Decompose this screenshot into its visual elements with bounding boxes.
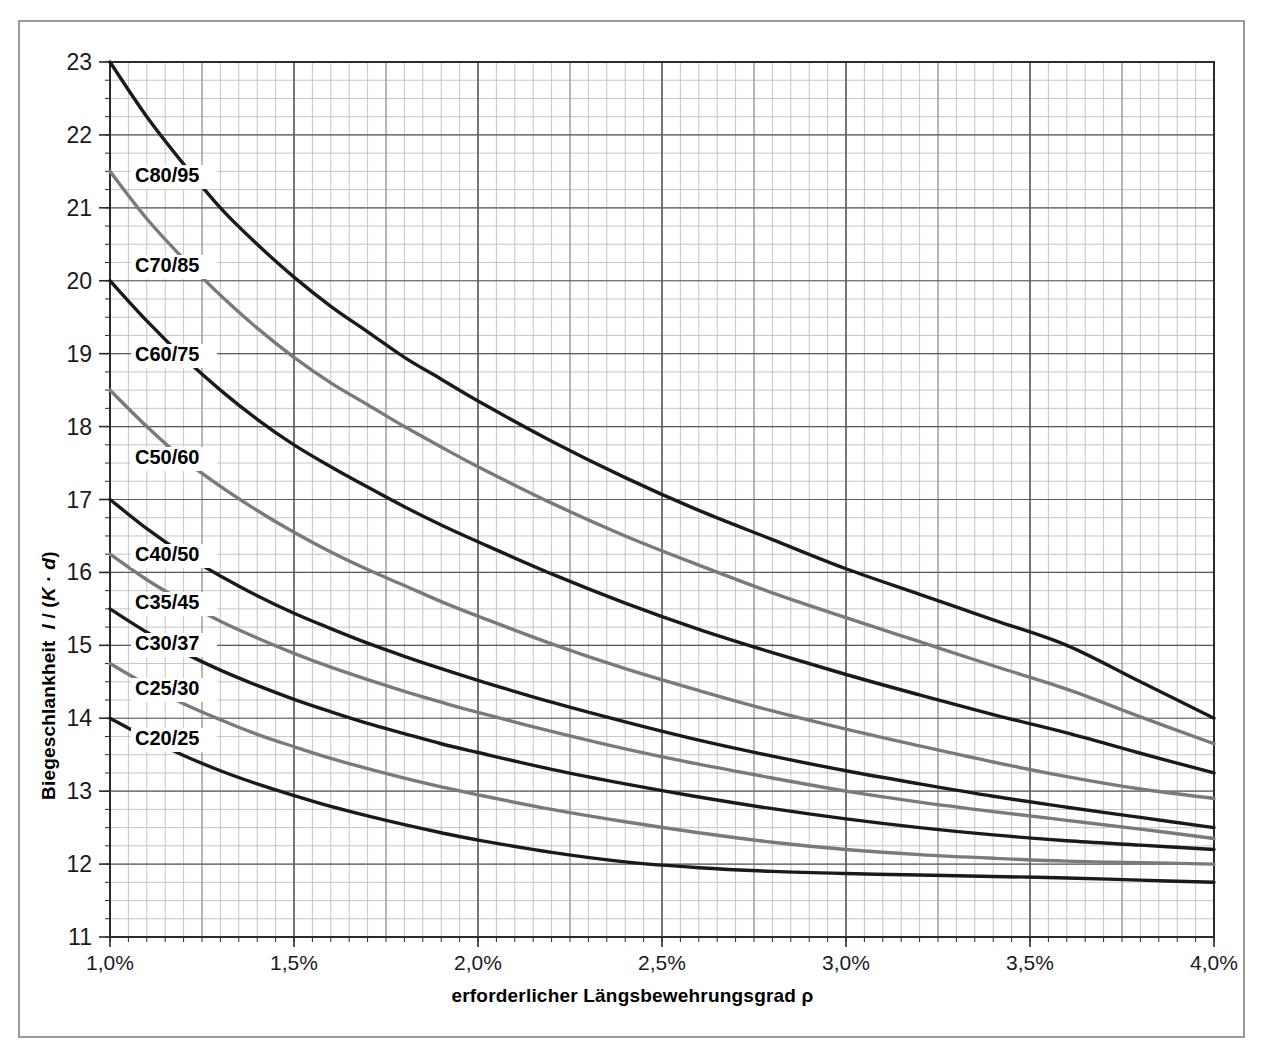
y-axis-title-dot: ·: [38, 570, 59, 588]
y-tick-label: 18: [66, 414, 92, 440]
curve-label-C20-25: C20/25: [135, 727, 200, 749]
curve-label-C30-37: C30/37: [135, 632, 200, 654]
curve-label-C60-75: C60/75: [135, 343, 200, 365]
curve-label-C50-60: C50/60: [135, 446, 200, 468]
x-tick-label: 3,5%: [1006, 951, 1054, 974]
curve-label-C35-45: C35/45: [135, 591, 200, 613]
y-tick-label: 15: [66, 632, 92, 658]
curve-label-C25-30: C25/30: [135, 677, 200, 699]
y-axis-title: Biegeschlankheit l / (K · d): [38, 551, 60, 800]
y-axis-tick-labels: 11121314151617181920212223: [66, 49, 92, 950]
y-tick-label: 16: [66, 559, 92, 585]
x-tick-label: 1,5%: [270, 951, 318, 974]
x-axis-title: erforderlicher Längsbewehrungsgrad ρ: [0, 985, 1265, 1007]
y-tick-label: 23: [66, 49, 92, 75]
y-tick-label: 22: [66, 122, 92, 148]
y-axis-title-main: Biegeschlankheit: [38, 641, 59, 800]
x-tick-label: 3,0%: [822, 951, 870, 974]
chart-page: C80/95C70/85C60/75C50/60C40/50C35/45C30/…: [0, 0, 1265, 1060]
y-axis-title-close: ): [38, 551, 59, 558]
y-tick-label: 11: [68, 924, 92, 950]
y-tick-label: 17: [66, 487, 92, 513]
y-tick-label: 12: [66, 851, 92, 877]
x-tick-label: 2,5%: [638, 951, 686, 974]
curve-label-C40-50: C40/50: [135, 543, 200, 565]
y-tick-label: 20: [66, 268, 92, 294]
y-axis-symbol-K: K: [38, 587, 59, 601]
y-tick-label: 21: [66, 195, 92, 221]
x-axis-tick-labels: 1,0%1,5%2,0%2,5%3,0%3,5%4,0%: [86, 951, 1238, 974]
y-axis-symbol-l: l: [38, 624, 59, 629]
x-tick-label: 4,0%: [1190, 951, 1238, 974]
y-axis-title-sep: / (: [38, 601, 59, 624]
y-tick-label: 19: [66, 341, 92, 367]
y-tick-label: 14: [66, 705, 92, 731]
x-axis-ticks: [110, 937, 1214, 947]
x-tick-label: 2,0%: [454, 951, 502, 974]
y-tick-label: 13: [66, 778, 92, 804]
curve-label-C70-85: C70/85: [135, 254, 200, 276]
curve-label-C80-95: C80/95: [135, 164, 200, 186]
y-axis-symbol-d: d: [38, 558, 59, 570]
x-tick-label: 1,0%: [86, 951, 134, 974]
chart-plot-area: C80/95C70/85C60/75C50/60C40/50C35/45C30/…: [0, 0, 1265, 1060]
